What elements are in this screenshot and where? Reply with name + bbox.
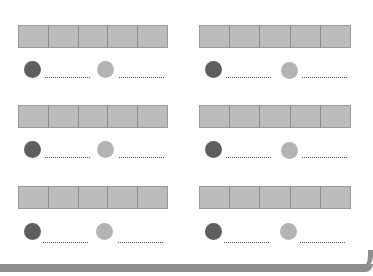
ten-frame-bar: [199, 25, 351, 48]
light-dot-icon: [281, 62, 298, 79]
ten-frame-bar: [18, 186, 168, 209]
frame-cell: [49, 26, 79, 47]
frame-cell: [49, 106, 79, 127]
frame-cell: [200, 26, 230, 47]
frame-cell: [260, 187, 290, 208]
frame-cell: [200, 106, 230, 127]
dark-dot-icon: [205, 141, 222, 158]
dark-dot-icon: [24, 61, 41, 78]
frame-cell: [260, 106, 290, 127]
counting-group-4: [199, 105, 349, 165]
counting-group-1: [18, 25, 168, 85]
light-dot-icon: [281, 142, 298, 159]
frame-cell: [321, 106, 350, 127]
answer-line-dark[interactable]: [43, 242, 88, 243]
answer-line-light[interactable]: [119, 157, 164, 158]
frame-cell: [79, 187, 109, 208]
frame-cell: [321, 187, 350, 208]
frame-cell: [200, 187, 230, 208]
answer-line-light[interactable]: [118, 242, 163, 243]
ten-frame-bar: [18, 105, 168, 128]
answer-line-light[interactable]: [302, 77, 347, 78]
frame-cell: [138, 26, 167, 47]
light-dot-icon: [280, 223, 297, 240]
answer-line-light[interactable]: [119, 77, 164, 78]
frame-cell: [230, 106, 260, 127]
frame-cell: [79, 26, 109, 47]
ten-frame-bar: [18, 25, 168, 48]
frame-cell: [138, 187, 167, 208]
frame-cell: [19, 106, 49, 127]
dark-dot-icon: [24, 223, 41, 240]
dark-dot-icon: [24, 141, 41, 158]
frame-cell: [291, 26, 321, 47]
dark-dot-icon: [205, 61, 222, 78]
frame-cell: [260, 26, 290, 47]
frame-cell: [230, 26, 260, 47]
frame-cell: [138, 106, 167, 127]
frame-cell: [321, 26, 350, 47]
frame-cell: [291, 187, 321, 208]
page-bottom-border: [0, 264, 373, 272]
answer-line-dark[interactable]: [226, 77, 271, 78]
answer-line-light[interactable]: [302, 157, 347, 158]
answer-line-dark[interactable]: [45, 77, 90, 78]
light-dot-icon: [96, 223, 113, 240]
answer-line-dark[interactable]: [45, 157, 90, 158]
light-dot-icon: [97, 141, 114, 158]
ten-frame-bar: [199, 105, 351, 128]
answer-line-dark[interactable]: [224, 242, 269, 243]
frame-cell: [108, 106, 138, 127]
frame-cell: [291, 106, 321, 127]
answer-line-light[interactable]: [300, 242, 345, 243]
dark-dot-icon: [205, 223, 222, 240]
frame-cell: [230, 187, 260, 208]
counting-group-5: [18, 186, 168, 246]
light-dot-icon: [97, 61, 114, 78]
frame-cell: [49, 187, 79, 208]
counting-group-2: [199, 25, 349, 85]
frame-cell: [108, 26, 138, 47]
answer-line-dark[interactable]: [226, 157, 271, 158]
frame-cell: [79, 106, 109, 127]
frame-cell: [19, 26, 49, 47]
counting-group-6: [199, 186, 349, 246]
frame-cell: [108, 187, 138, 208]
frame-cell: [19, 187, 49, 208]
ten-frame-bar: [199, 186, 351, 209]
counting-group-3: [18, 105, 168, 165]
